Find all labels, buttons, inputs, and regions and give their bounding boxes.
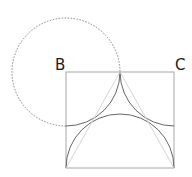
label-c: C	[175, 58, 185, 73]
left-triangle-side	[66, 72, 120, 168]
label-b: B	[55, 58, 65, 73]
right-quarter-arc	[120, 72, 174, 126]
right-triangle-side	[120, 72, 174, 168]
square	[66, 72, 174, 168]
geometry-diagram	[0, 0, 192, 177]
semicircle-arc	[66, 114, 174, 168]
left-quarter-arc	[66, 72, 120, 126]
